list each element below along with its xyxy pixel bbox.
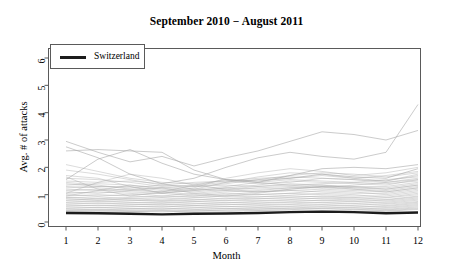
legend: Switzerland	[50, 44, 145, 69]
y-tick-label: 4	[35, 113, 46, 133]
x-axis-label: Month	[0, 250, 453, 262]
x-tick-label: 10	[342, 235, 366, 246]
x-tick-label: 3	[118, 235, 142, 246]
legend-line-swatch	[60, 56, 86, 59]
x-tick-label: 5	[182, 235, 206, 246]
y-tick-label: 6	[35, 58, 46, 78]
x-tick-label: 1	[54, 235, 78, 246]
y-axis-label: Avg. # of attacks	[18, 67, 30, 207]
legend-label-switzerland: Switzerland	[94, 50, 139, 63]
x-tick-label: 7	[246, 235, 270, 246]
x-tick-label: 12	[406, 235, 430, 246]
x-tick-label: 4	[150, 235, 174, 246]
x-tick-label: 11	[374, 235, 398, 246]
y-tick-label: 5	[35, 85, 46, 105]
series-line	[66, 130, 418, 166]
x-tick-label: 8	[278, 235, 302, 246]
y-tick-label: 2	[35, 167, 46, 187]
series-line	[66, 104, 418, 183]
chart-title: September 2010 − August 2011	[0, 14, 453, 28]
y-tick-label: 0	[35, 222, 46, 242]
y-tick-label: 3	[35, 140, 46, 160]
x-tick-label: 2	[86, 235, 110, 246]
chart-figure: September 2010 − August 2011 Avg. # of a…	[0, 0, 453, 274]
x-tick-label: 9	[310, 235, 334, 246]
x-tick-label: 6	[214, 235, 238, 246]
series-layer	[66, 104, 418, 214]
plot-canvas	[0, 0, 453, 274]
y-tick-label: 1	[35, 195, 46, 215]
